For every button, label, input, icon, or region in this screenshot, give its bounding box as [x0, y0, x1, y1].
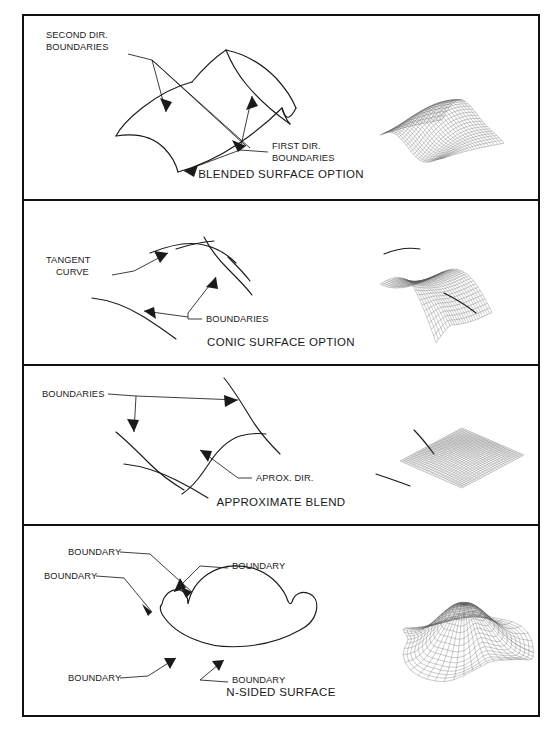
blended-patch-lineart: [116, 50, 296, 172]
blended-patch-wireframe: [380, 100, 504, 163]
caption-n-sided-surface: N-SIDED SURFACE: [24, 686, 538, 698]
n-sided-dome-wireframe: [403, 602, 533, 682]
surface-options-figure: SECOND DIR. BOUNDARIES FIRST DIR. BOUNDA…: [22, 14, 540, 717]
caption-blended-surface: BLENDED SURFACE OPTION: [24, 168, 538, 180]
label-second-dir-boundaries-line2: BOUNDARIES: [46, 42, 108, 52]
label-first-dir-boundaries-line2: BOUNDARIES: [272, 153, 334, 163]
label-boundary-bottom-left: BOUNDARY: [68, 673, 121, 683]
label-boundary-top: BOUNDARY: [68, 547, 121, 557]
label-approx-boundaries-text: BOUNDARIES: [42, 389, 104, 399]
label-first-dir-boundaries: FIRST DIR. BOUNDARIES: [272, 141, 334, 163]
label-second-dir-boundaries-line1: SECOND DIR.: [46, 30, 108, 40]
panel-conic-surface: TANGENT CURVE BOUNDARIES CONIC SURFACE O…: [24, 199, 538, 364]
label-boundary-upper-right-text: BOUNDARY: [232, 561, 285, 571]
approximate-blend-wireframe: [376, 428, 524, 488]
label-boundary-left: BOUNDARY: [44, 571, 97, 581]
panel-blended-surface: SECOND DIR. BOUNDARIES FIRST DIR. BOUNDA…: [24, 16, 538, 199]
n-sided-leader-lines: [96, 552, 228, 682]
label-boundary-bottom-left-text: BOUNDARY: [68, 673, 121, 683]
blended-leader-lines: [128, 54, 268, 177]
label-approx-boundaries: BOUNDARIES: [42, 389, 104, 399]
caption-approximate-blend: APPROXIMATE BLEND: [24, 496, 538, 508]
label-tangent-curve: TANGENT CURVE: [46, 255, 91, 277]
label-tangent-curve-line2: CURVE: [56, 267, 89, 277]
approx-blend-leader-lines: [108, 394, 252, 478]
label-boundary-bottom-right: BOUNDARY: [232, 675, 285, 685]
label-boundary-left-text: BOUNDARY: [44, 571, 97, 581]
label-boundary-bottom-right-text: BOUNDARY: [232, 675, 285, 685]
panel-approximate-blend: BOUNDARIES APROX. DIR. APPROXIMATE BLEND: [24, 364, 538, 524]
label-conic-boundaries: BOUNDARIES: [206, 314, 268, 324]
label-first-dir-boundaries-line1: FIRST DIR.: [272, 141, 321, 151]
label-conic-boundaries-text: BOUNDARIES: [206, 314, 268, 324]
label-aprox-dir: APROX. DIR.: [256, 473, 313, 483]
label-aprox-dir-text: APROX. DIR.: [256, 473, 313, 483]
conic-patch-wireframe: [380, 248, 492, 343]
label-boundary-top-text: BOUNDARY: [68, 547, 121, 557]
label-second-dir-boundaries: SECOND DIR. BOUNDARIES: [46, 30, 108, 52]
label-boundary-upper-right: BOUNDARY: [232, 561, 285, 571]
n-sided-boundary-outline: [161, 566, 317, 647]
panel-n-sided-surface: BOUNDARY BOUNDARY BOUNDARY BOUNDARY BOUN…: [24, 524, 538, 717]
label-tangent-curve-line1: TANGENT: [46, 255, 91, 265]
caption-conic-surface: CONIC SURFACE OPTION: [24, 336, 538, 348]
